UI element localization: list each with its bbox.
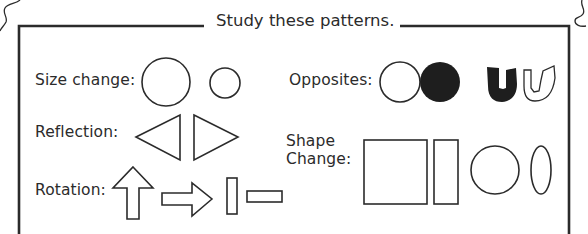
small-circle-shape [210,68,240,98]
vertical-bar-shape [227,178,237,214]
tall-rectangle-shape [434,140,458,204]
right-triangle-shape [194,115,238,160]
ellipse-shape [531,146,551,194]
up-arrow-shape [113,167,153,219]
circle-shape [471,146,519,194]
page-title: Study these patterns. [212,13,398,30]
label-shape-change-line2: Change: [286,152,351,168]
left-triangle-shape [136,115,180,160]
label-opposites: Opposites: [289,73,373,89]
corner-swirl-left-icon [0,0,20,31]
horizontal-bar-shape [247,191,282,202]
label-shape-change-line1: Shape [286,134,335,150]
label-rotation: Rotation: [35,183,106,199]
corner-swirl-right-icon [575,0,586,26]
filled-circle-shape [420,62,460,102]
outline-u-shape [524,66,555,101]
filled-u-shape [487,67,517,102]
square-shape [364,140,427,204]
large-circle-shape [142,58,190,106]
right-arrow-shape [162,183,212,216]
label-reflection: Reflection: [35,125,118,141]
label-size-change: Size change: [35,73,135,89]
outline-circle-shape [380,62,420,102]
